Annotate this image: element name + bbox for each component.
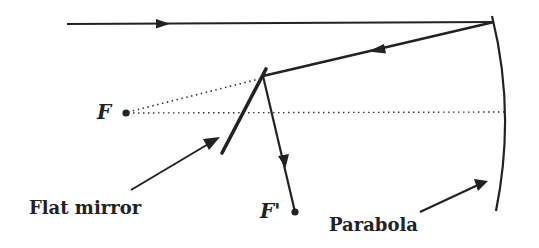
virtual-ray: [128, 78, 263, 112]
focus-label-F-prime: F': [260, 199, 280, 223]
reflected-ray: [263, 22, 494, 76]
diverted-ray: [263, 76, 295, 212]
diagram-canvas: F F' Flat mirror Parabola: [0, 0, 539, 248]
focus-point-F: [122, 109, 129, 116]
flat-mirror-pointer: [131, 137, 220, 190]
pointer-arrow-icon: [474, 179, 488, 191]
optical-axis: [128, 112, 504, 113]
arrow-right-icon: [156, 19, 170, 29]
focus-label-F: F: [97, 100, 111, 124]
focus-point-F-prime: [291, 208, 298, 215]
flat-mirror: [222, 69, 266, 153]
parabola-mirror: [492, 16, 505, 211]
arrow-left-icon: [368, 44, 386, 54]
parabola-label: Parabola: [329, 214, 418, 235]
flat-mirror-label: Flat mirror: [29, 197, 141, 218]
parabola-pointer: [420, 179, 488, 212]
incoming-ray: [67, 19, 494, 29]
pointer-arrow-icon: [203, 137, 220, 150]
